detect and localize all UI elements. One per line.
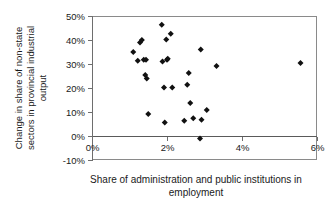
x-axis-title-line1: Share of administration and public insti…: [90, 174, 302, 185]
y-axis-title-line3: output: [37, 74, 48, 101]
data-point: [135, 58, 141, 64]
y-tick-label: 0%: [71, 131, 85, 142]
y-axis-ticks: [88, 17, 93, 161]
y-axis-title-line1: Change in share of non-state: [13, 27, 24, 150]
x-tick-label: 2%: [161, 142, 175, 153]
x-tick-label: 6%: [311, 142, 325, 153]
data-point: [186, 70, 192, 76]
y-tick-label: 50%: [66, 11, 86, 22]
x-axis-title-line2: employment: [169, 187, 224, 198]
data-point: [181, 118, 187, 124]
x-axis-tick-labels: 0%2%4%6%: [86, 142, 325, 153]
data-point: [187, 100, 193, 106]
data-point: [198, 47, 204, 53]
y-tick-label: -10%: [63, 155, 86, 166]
data-point: [159, 22, 165, 28]
data-point: [145, 111, 151, 117]
plot-frame: [93, 17, 317, 160]
x-axis-ticks: [168, 137, 318, 141]
chart-canvas: -10%0%10%20%30%40%50% 0%2%4%6% Change in…: [0, 0, 334, 203]
y-axis-tick-labels: -10%0%10%20%30%40%50%: [63, 11, 86, 166]
scatter-chart-figure: -10%0%10%20%30%40%50% 0%2%4%6% Change in…: [0, 0, 334, 203]
data-point: [214, 63, 220, 69]
data-point: [204, 107, 210, 113]
data-point: [199, 117, 205, 123]
x-tick-label: 0%: [86, 142, 100, 153]
data-point: [190, 115, 196, 121]
data-point: [161, 85, 167, 91]
y-axis-title: Change in share of non-state sectors in …: [13, 26, 48, 150]
data-point: [298, 60, 304, 66]
y-tick-label: 10%: [66, 107, 86, 118]
x-tick-label: 4%: [236, 142, 250, 153]
data-point: [130, 49, 136, 55]
y-tick-label: 30%: [66, 59, 86, 70]
y-axis-title-line2: sectors in provincial industrial: [25, 26, 36, 150]
data-point: [168, 31, 174, 37]
x-axis-title: Share of administration and public insti…: [90, 174, 302, 198]
data-point: [169, 85, 175, 91]
data-point-series: [130, 22, 303, 142]
data-point: [162, 120, 168, 126]
data-point: [184, 82, 190, 88]
y-tick-label: 20%: [66, 83, 86, 94]
data-point: [163, 37, 169, 43]
y-tick-label: 40%: [66, 35, 86, 46]
